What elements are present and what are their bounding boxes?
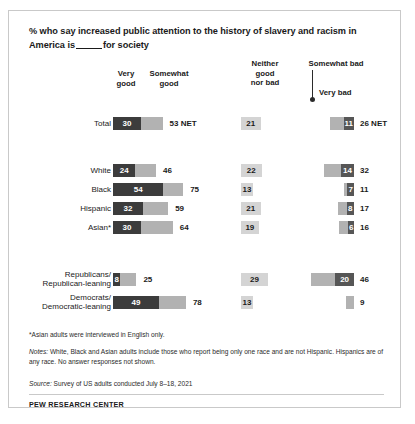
very-good-value: 49 (113, 296, 159, 309)
bad-net-value: 11 (360, 183, 368, 196)
bad-net-value: 32 (360, 164, 369, 177)
somewhat-good-segment (135, 164, 156, 177)
very-bad-value: 14 (341, 164, 354, 177)
leader-line-dot (310, 97, 315, 102)
bad-bar: 7 (344, 183, 354, 196)
neither-value: 13 (241, 296, 253, 309)
bad-net-value: 17 (360, 202, 369, 215)
source-text: Survey of US adults conducted July 8–18,… (52, 380, 193, 387)
neither-value: 19 (241, 221, 259, 234)
row-label: Asian* (19, 223, 111, 232)
chart-card: % who say increased public attention to … (8, 10, 401, 408)
somewhat-good-segment (141, 221, 173, 234)
row-label: Total (19, 119, 111, 128)
very-bad-value: 6 (348, 221, 354, 234)
good-net-value: 78 (193, 296, 202, 309)
good-net-value: 64 (180, 221, 189, 234)
somewhat-good-segment (143, 202, 168, 215)
note-asterisk: *Asian adults were interviewed in Englis… (29, 330, 384, 340)
good-bar: 30 (113, 221, 173, 234)
bad-net-value: 26 NET (360, 117, 387, 130)
somewhat-bad-segment (338, 202, 346, 215)
somewhat-bad-segment (311, 273, 335, 286)
chart-row: Total3053 NET211126 NET (9, 117, 402, 130)
very-good-value: 30 (113, 117, 141, 130)
chart-row: Democrats/Democratic-leaning4978139 (9, 296, 402, 309)
bad-bar: 8 (338, 202, 354, 215)
good-bar: 30 (113, 117, 163, 130)
very-bad-value: 8 (347, 202, 354, 215)
somewhat-good-segment (159, 296, 186, 309)
bad-bar: 20 (311, 273, 354, 286)
very-good-value: 30 (113, 221, 141, 234)
very-good-value: 8 (113, 273, 120, 286)
very-bad-value: 20 (335, 273, 354, 286)
row-label: Republicans/Republican-leaning (19, 270, 111, 289)
good-bar: 49 (113, 296, 186, 309)
bad-net-value: 46 (360, 273, 369, 286)
row-label: Black (19, 185, 111, 194)
neither-value: 21 (241, 202, 261, 215)
somewhat-bad-segment (324, 164, 341, 177)
somewhat-bad-segment (330, 117, 344, 130)
source-label: Source: (29, 380, 52, 387)
neither-value: 21 (241, 117, 261, 130)
good-net-value: 25 (143, 273, 152, 286)
very-bad-value: 7 (347, 183, 354, 196)
good-net-value: 46 (163, 164, 172, 177)
row-label: Hispanic (19, 204, 111, 213)
fill-in-blank (76, 48, 102, 49)
somewhat-bad-segment (339, 221, 348, 234)
bad-bar (346, 296, 354, 309)
somewhat-good-segment (163, 183, 183, 196)
bad-bar: 14 (324, 164, 354, 177)
chart-title-part1: % who say increased public attention to … (29, 26, 357, 50)
note-source: Source: Survey of US adults conducted Ju… (29, 379, 384, 389)
very-good-value: 32 (113, 202, 143, 215)
bad-net-value: 9 (360, 296, 364, 309)
neither-value: 13 (241, 183, 253, 196)
chart-title: % who say increased public attention to … (29, 25, 379, 52)
good-bar: 8 (113, 273, 136, 286)
chart-row: Republicans/Republican-leaning825292046 (9, 273, 402, 286)
row-label: Democrats/Democratic-leaning (19, 293, 111, 312)
chart-title-part2: for society (103, 40, 149, 50)
column-header-somewhat-good: Somewhatgood (142, 69, 196, 88)
good-bar: 54 (113, 183, 183, 196)
column-header-neither-good-nor-bad: Neithergoodnor bad (237, 59, 293, 88)
column-header-very-good: Verygood (109, 69, 143, 88)
very-good-value: 24 (113, 164, 135, 177)
very-bad-value: 11 (344, 117, 354, 130)
bad-bar: 11 (330, 117, 354, 130)
note-notes: Notes: White, Black and Asian adults inc… (29, 347, 384, 366)
chart-row: Asian*306419616 (9, 221, 402, 234)
column-header-somewhat-bad: Somewhat bad (295, 59, 377, 69)
footer-divider (29, 394, 384, 395)
good-net-value: 75 (190, 183, 199, 196)
neither-value: 29 (241, 273, 268, 286)
chart-row: White2446221432 (9, 164, 402, 177)
very-good-value: 54 (113, 183, 163, 196)
notes-label: Notes: (29, 348, 48, 355)
good-net-value: 59 (175, 202, 184, 215)
bad-net-value: 16 (360, 221, 369, 234)
neither-value: 22 (241, 164, 262, 177)
good-net-value: 53 NET (170, 117, 197, 130)
good-bar: 24 (113, 164, 156, 177)
good-bar: 32 (113, 202, 168, 215)
bad-bar: 6 (339, 221, 354, 234)
row-label: White (19, 166, 111, 175)
chart-row: Hispanic325921817 (9, 202, 402, 215)
somewhat-good-segment (120, 273, 136, 286)
leader-line (312, 70, 313, 99)
column-header-very-bad: Very bad (319, 88, 375, 98)
footer-brand: PEW RESEARCH CENTER (29, 400, 124, 409)
chart-row: Black547513711 (9, 183, 402, 196)
somewhat-good-segment (141, 117, 163, 130)
notes-text: White, Black and Asian adults include th… (29, 348, 383, 365)
somewhat-bad-segment (346, 296, 354, 309)
